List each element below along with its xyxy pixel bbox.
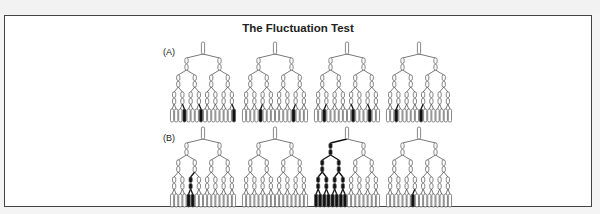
branch-cell: [214, 177, 217, 183]
leaf-cell: [199, 194, 202, 207]
lineage-branch: [331, 70, 339, 75]
lineage-branch: [431, 104, 433, 109]
branch-cell: [261, 99, 264, 105]
leaf-cell: [356, 194, 359, 207]
leaf-cell: [216, 109, 219, 122]
lineage-branch: [394, 70, 402, 75]
leaf-cell: [195, 109, 198, 122]
lineage-branch: [285, 104, 287, 109]
lineage-branch: [423, 104, 425, 109]
lineage-branch: [394, 172, 398, 177]
lineage-branch: [398, 104, 400, 109]
branch-cell: [446, 184, 449, 190]
lineage-branch: [440, 87, 444, 92]
lineage-branch: [405, 104, 407, 109]
lineage-branch: [191, 189, 193, 194]
leaf-cell: [275, 109, 278, 122]
lineage-branch: [283, 70, 291, 75]
lineage-branch: [302, 189, 304, 194]
branch-cell: [230, 92, 233, 98]
branch-cell: [173, 92, 176, 98]
leaf-cell: [335, 194, 338, 207]
branch-cell: [197, 92, 200, 98]
lineage-branch: [403, 70, 411, 75]
branch-cell: [362, 58, 365, 64]
leaf-cell: [391, 109, 394, 122]
branch-cell: [366, 184, 369, 190]
leaf-cell: [395, 109, 398, 122]
branch-cell: [189, 177, 192, 183]
leaf-cell: [292, 109, 295, 122]
lineage-branch: [355, 87, 359, 92]
lineage-branch: [376, 104, 378, 109]
branch-cell: [290, 150, 293, 156]
branch-cell: [257, 143, 260, 149]
branch-cell: [193, 160, 196, 166]
lineage-branch: [390, 172, 394, 177]
branch-cell: [206, 177, 209, 183]
leaf-cell: [399, 194, 402, 207]
lineage-branch: [296, 87, 300, 92]
lineage-branch: [232, 104, 234, 109]
lineage-branch: [213, 189, 215, 194]
branch-cell: [401, 150, 404, 156]
branch-cell: [409, 82, 412, 88]
branch-cell: [317, 92, 320, 98]
leaf-cell: [403, 109, 406, 122]
lineage-branch: [187, 139, 204, 143]
lineage-branch: [403, 155, 411, 160]
lineage-branch: [318, 104, 320, 109]
lineage-branch: [277, 104, 279, 109]
branch-cell: [337, 167, 340, 173]
branch-cell: [337, 75, 340, 81]
lineage-branch: [438, 104, 440, 109]
leaf-cell: [296, 109, 299, 122]
leaf-cell: [415, 194, 418, 207]
branch-cell: [218, 150, 221, 156]
leaf-cell: [179, 194, 182, 207]
branch-cell: [422, 92, 425, 98]
leaf-cell: [275, 194, 278, 207]
leaf-cell: [448, 194, 451, 207]
leaf-cell: [360, 194, 363, 207]
lineage-branch: [252, 189, 254, 194]
branch-cell: [253, 99, 256, 105]
branch-cell: [193, 82, 196, 88]
lineage-branch: [287, 189, 289, 194]
lineage-branch: [423, 189, 425, 194]
branch-cell: [413, 99, 416, 105]
leaf-cell: [242, 109, 245, 122]
leaf-cell: [304, 194, 307, 207]
branch-cell: [358, 92, 361, 98]
lineage-branch: [191, 172, 195, 177]
leaf-cell: [356, 109, 359, 122]
lineage-branch: [446, 189, 448, 194]
lineage-branch: [448, 104, 450, 109]
leaf-cell: [251, 194, 254, 207]
leaf-cell: [300, 194, 303, 207]
lineage-branch: [215, 189, 217, 194]
leaf-cell: [208, 109, 211, 122]
lineage-branch: [333, 104, 335, 109]
lineage-branch: [263, 87, 267, 92]
leaf-cell: [220, 109, 223, 122]
leaf-cell: [352, 109, 355, 122]
leaf-cell: [347, 194, 350, 207]
branch-cell: [325, 99, 328, 105]
lineage-branch: [351, 172, 355, 177]
leaf-cell: [280, 109, 283, 122]
branch-cell: [430, 177, 433, 183]
branch-cell: [354, 82, 357, 88]
branch-cell: [329, 58, 332, 64]
branch-cell: [366, 99, 369, 105]
branch-cell: [302, 177, 305, 183]
branch-cell: [321, 160, 324, 166]
branch-cell: [374, 184, 377, 190]
lineage-branch: [351, 87, 355, 92]
lineage-branch: [368, 104, 370, 109]
lineage-branch: [283, 155, 291, 160]
lineage-branch: [427, 87, 431, 92]
branch-cell: [426, 75, 429, 81]
lineage-branch: [259, 70, 267, 75]
branch-cell: [278, 184, 281, 190]
